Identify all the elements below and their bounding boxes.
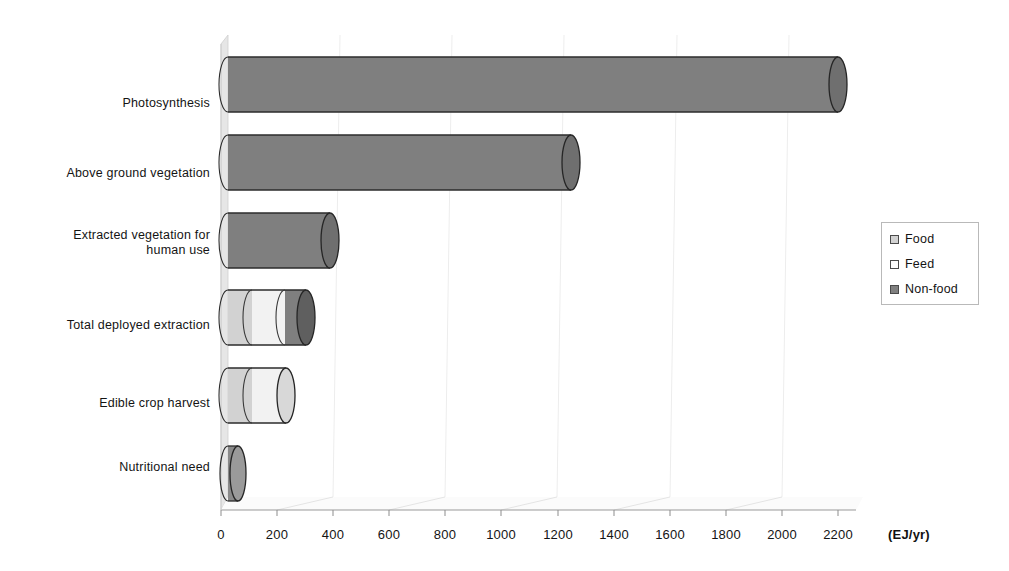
legend-swatch-feed — [890, 260, 899, 269]
x-tick-label-600: 600 — [369, 527, 409, 542]
legend-item-food[interactable]: Food — [890, 231, 934, 247]
x-tick-label-400: 400 — [313, 527, 353, 542]
category-label-nutritional-need: Nutritional need — [20, 460, 210, 475]
legend-label-feed: Feed — [905, 257, 934, 271]
category-label-extracted-vegetation-for-human-use: Extracted vegetation for human use — [20, 228, 210, 258]
x-tick-label-1800: 1800 — [703, 527, 749, 542]
x-axis-ticks — [221, 510, 838, 516]
legend-label-food: Food — [905, 232, 934, 246]
chart-3d-stacked-bar: Photosynthesis Above ground vegetation E… — [0, 0, 1009, 571]
plot-area-3d-frame — [0, 0, 1009, 571]
bar-extracted-vegetation-for-human-use — [219, 213, 339, 268]
bar-total-deployed-extraction — [219, 290, 315, 345]
legend-item-non-food[interactable]: Non-food — [890, 281, 958, 297]
x-tick-label-1200: 1200 — [535, 527, 581, 542]
category-label-total-deployed-extraction: Total deployed extraction — [20, 318, 210, 333]
x-tick-label-2000: 2000 — [759, 527, 805, 542]
x-tick-label-1600: 1600 — [647, 527, 693, 542]
category-label-photosynthesis: Photosynthesis — [20, 96, 210, 111]
bar-edible-crop-harvest — [219, 368, 295, 423]
bar-photosynthesis — [219, 57, 847, 112]
x-tick-label-0: 0 — [201, 527, 241, 542]
plot-floor — [221, 497, 863, 510]
x-axis-unit-label: (EJ/yr) — [888, 527, 930, 542]
legend-item-feed[interactable]: Feed — [890, 256, 934, 272]
bar-above-ground-vegetation — [219, 135, 580, 190]
x-tick-label-1400: 1400 — [591, 527, 637, 542]
legend-label-non-food: Non-food — [905, 282, 958, 296]
legend-swatch-food — [890, 235, 899, 244]
category-label-edible-crop-harvest: Edible crop harvest — [20, 396, 210, 411]
x-tick-label-200: 200 — [257, 527, 297, 542]
category-label-above-ground-vegetation: Above ground vegetation — [20, 166, 210, 181]
x-tick-label-800: 800 — [425, 527, 465, 542]
x-tick-label-1000: 1000 — [478, 527, 524, 542]
legend: Food Feed Non-food — [881, 222, 979, 305]
x-tick-label-2200: 2200 — [815, 527, 861, 542]
legend-swatch-non-food — [890, 285, 899, 294]
